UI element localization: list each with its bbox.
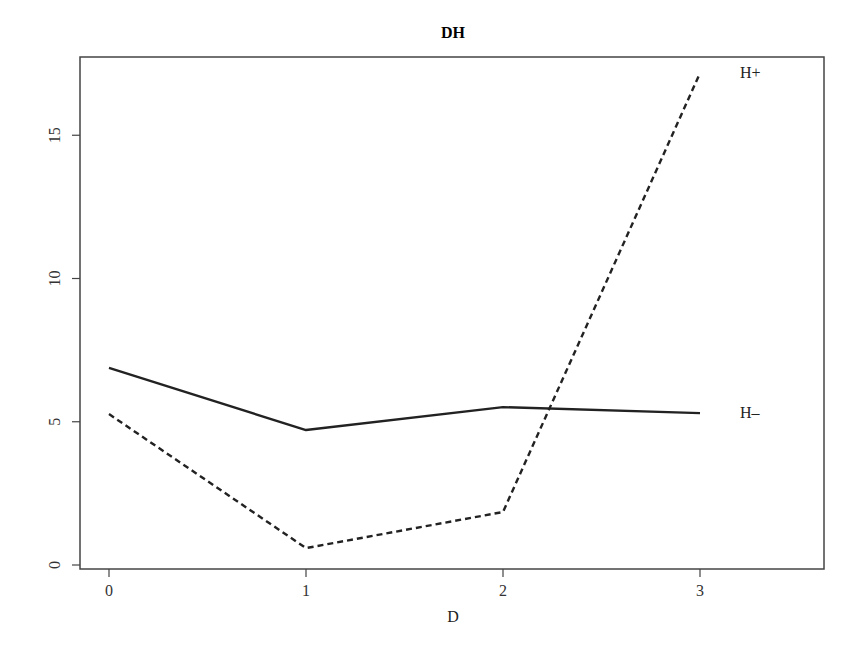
series-label: H+ xyxy=(740,64,761,81)
y-tick-label: 15 xyxy=(46,127,63,143)
x-axis: 0123 xyxy=(105,569,704,599)
y-tick-label: 5 xyxy=(46,418,63,426)
series-h-plus-line xyxy=(109,73,700,548)
x-tick-label: 1 xyxy=(302,582,310,599)
x-tick-label: 2 xyxy=(499,582,507,599)
series-label: H– xyxy=(740,404,761,421)
series-labels: H–H+ xyxy=(740,64,761,421)
series-h-minus-line xyxy=(109,368,700,430)
line-chart: DH 051015 0123 D H–H+ xyxy=(0,0,867,656)
plot-frame xyxy=(80,57,824,569)
series-layer xyxy=(109,73,700,548)
chart-title: DH xyxy=(441,24,466,41)
x-axis-label: D xyxy=(447,608,459,625)
y-tick-label: 0 xyxy=(46,561,63,569)
x-tick-label: 3 xyxy=(696,582,704,599)
y-axis: 051015 xyxy=(46,127,80,569)
y-tick-label: 10 xyxy=(46,271,63,287)
x-tick-label: 0 xyxy=(105,582,113,599)
